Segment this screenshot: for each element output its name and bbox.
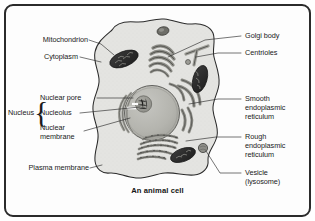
label-cytoplasm: Cytoplasm <box>16 53 78 62</box>
figure-caption: An animal cell <box>0 186 315 195</box>
label-rough-er-line3: reticulum <box>245 151 274 160</box>
leader-vesicle <box>206 151 241 173</box>
label-centrioles: Centrioles <box>245 49 277 58</box>
animal-cell-figure: Mitochondrion Cytoplasm Nuclear pore Nuc… <box>0 0 315 221</box>
label-nuclear-membrane-line2: membrane <box>40 133 74 142</box>
label-plasma-membrane: Plasma membrane <box>14 164 89 173</box>
nucleus-brace: { <box>34 97 48 127</box>
label-nucleus: Nucleus <box>8 109 34 118</box>
label-golgi-body: Golgi body <box>245 32 279 41</box>
label-smooth-er-line3: reticulum <box>245 113 274 122</box>
label-mitochondrion: Mitochondrion <box>16 36 88 45</box>
